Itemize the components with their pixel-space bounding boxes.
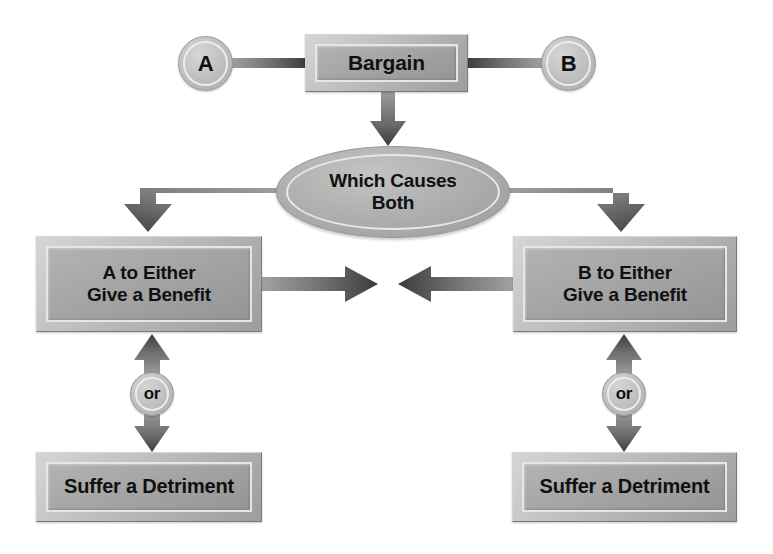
node-b-detriment[interactable]: Suffer a Detriment xyxy=(512,452,737,522)
connector-ellipse-to-a-benefit xyxy=(124,188,300,232)
node-party-a[interactable]: A xyxy=(178,36,233,91)
node-which-causes-both-label: Which Causes Both xyxy=(329,170,456,215)
diagram-canvas: A Bargain B Which Causes Both A to Eithe… xyxy=(0,0,773,554)
connector-bargain-to-ellipse xyxy=(370,92,406,146)
node-or-left-label: or xyxy=(144,384,161,404)
connector-ellipse-to-b-benefit xyxy=(486,188,645,232)
node-a-detriment[interactable]: Suffer a Detriment xyxy=(36,452,262,522)
node-or-right-label: or xyxy=(616,384,633,404)
node-a-detriment-label: Suffer a Detriment xyxy=(64,475,234,499)
connector-a-benefit-to-center xyxy=(262,266,378,302)
node-party-b[interactable]: B xyxy=(541,36,596,91)
node-b-benefit[interactable]: B to Either Give a Benefit xyxy=(513,236,737,332)
node-which-causes-both[interactable]: Which Causes Both xyxy=(276,146,510,238)
node-bargain[interactable]: Bargain xyxy=(305,34,468,92)
node-or-left[interactable]: or xyxy=(130,372,174,416)
node-party-a-label: A xyxy=(198,51,214,77)
connector-b-benefit-to-center xyxy=(398,266,514,302)
node-b-detriment-label: Suffer a Detriment xyxy=(540,475,710,499)
node-a-benefit-label: A to Either Give a Benefit xyxy=(87,262,211,307)
node-or-right[interactable]: or xyxy=(602,372,646,416)
connector-a-to-bargain xyxy=(230,58,308,68)
node-a-benefit[interactable]: A to Either Give a Benefit xyxy=(36,236,262,332)
node-b-benefit-label: B to Either Give a Benefit xyxy=(563,262,687,307)
connector-bargain-to-b xyxy=(466,58,544,68)
node-party-b-label: B xyxy=(561,51,577,77)
node-bargain-label: Bargain xyxy=(348,51,425,76)
